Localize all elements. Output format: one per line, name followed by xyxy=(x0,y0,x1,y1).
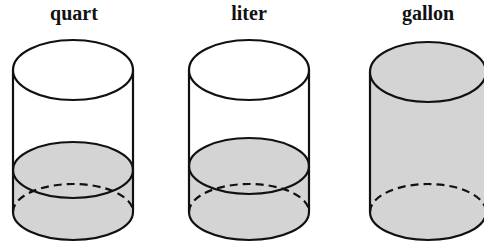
quart-cylinder xyxy=(13,40,133,240)
liter-cylinder xyxy=(189,40,309,240)
quart-top-rim xyxy=(13,40,133,100)
gallon-cylinder xyxy=(370,42,484,240)
liter-liquid-surface xyxy=(189,138,309,194)
liter-top-rim xyxy=(189,40,309,100)
gallon-top-rim xyxy=(370,42,484,102)
cylinders-diagram xyxy=(0,0,484,252)
quart-liquid-surface xyxy=(13,142,133,198)
